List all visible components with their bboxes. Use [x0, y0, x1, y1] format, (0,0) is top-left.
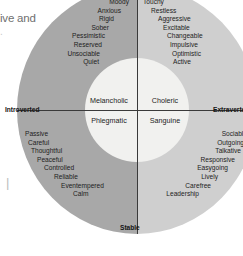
trait-word: Touchy	[143, 0, 243, 7]
trait-word: Changeable	[143, 32, 243, 41]
horizontal-axis-line	[17, 110, 243, 111]
trait-word: Carefree	[143, 182, 243, 191]
trait-word: Lively	[143, 173, 243, 182]
temperament-label-phlegmatic: Phlegmatic	[81, 116, 137, 125]
trait-word: Reliable	[25, 173, 129, 182]
trait-word: Quiet	[25, 58, 129, 67]
trait-list-upper-right: Touchy Restless Aggressive Excitable Cha…	[143, 0, 243, 67]
trait-word: Calm	[25, 190, 129, 199]
margin-rule-mark: |	[6, 176, 9, 189]
trait-word: Leadership	[143, 190, 243, 199]
axis-pole-stable: Stable	[120, 224, 140, 232]
trait-list-lower-left: Passive Careful Thoughtful Peaceful Cont…	[25, 130, 129, 199]
trait-word: Eventempered	[25, 182, 129, 191]
trait-word: Moody	[25, 0, 129, 7]
trait-word: Active	[143, 58, 243, 67]
trait-word: Careful	[25, 139, 129, 148]
trait-word: Reserved	[25, 41, 129, 50]
trait-word: Sociable	[143, 130, 243, 139]
axis-pole-extraverted: Extraverted	[213, 106, 243, 114]
temperament-label-melancholic: Melancholic	[81, 96, 137, 105]
trait-word: Controlled	[25, 164, 129, 173]
trait-word: Anxious	[25, 7, 129, 16]
axis-pole-introverted: Introverted	[5, 106, 39, 114]
trait-word: Easygoing	[143, 164, 243, 173]
trait-word: Excitable	[143, 24, 243, 33]
trait-word: Talkative	[143, 147, 243, 156]
trait-word: Outgoing	[143, 139, 243, 148]
trait-list-upper-left: Moody Anxious Rigid Sober Pessimistic Re…	[25, 0, 129, 67]
temperament-label-choleric: Choleric	[137, 96, 193, 105]
trait-word: Sober	[25, 24, 129, 33]
temperament-label-sanguine: Sanguine	[137, 116, 193, 125]
trait-word: Passive	[25, 130, 129, 139]
trait-word: Aggressive	[143, 15, 243, 24]
trait-word: Responsive	[143, 156, 243, 165]
trait-word: Unsociable	[25, 50, 129, 59]
trait-word: Optimistic	[143, 50, 243, 59]
trait-word: Restless	[143, 7, 243, 16]
trait-word: Pessimistic	[25, 32, 129, 41]
trait-word: Impulsive	[143, 41, 243, 50]
trait-word: Thoughtful	[25, 147, 129, 156]
trait-word: Peaceful	[25, 156, 129, 165]
eysenck-circumplex-diagram: Moody Anxious Rigid Sober Pessimistic Re…	[17, 0, 243, 234]
trait-list-lower-right: Sociable Outgoing Talkative Responsive E…	[143, 130, 243, 199]
trait-word: Rigid	[25, 15, 129, 24]
